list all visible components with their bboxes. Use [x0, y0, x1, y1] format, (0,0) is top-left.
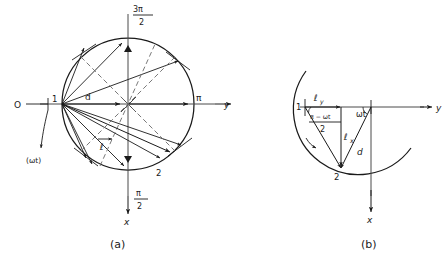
point-2-label-b: 2 — [334, 172, 339, 182]
point-2-label-a: 2 — [156, 168, 161, 178]
axis-x-label-b: x — [366, 215, 373, 225]
chord-a-3 — [62, 61, 178, 104]
tick-a-1 — [72, 44, 96, 60]
caption-a: (a) — [110, 238, 125, 251]
origin-label-a: O — [14, 100, 21, 110]
angle-top-denominator-a: 2 — [139, 18, 144, 27]
tick-a-2 — [166, 52, 190, 70]
rotation-label-a: (ωt) — [26, 156, 41, 165]
point-top-marker-a — [124, 45, 132, 52]
angle-half-denominator-b: 2 — [320, 125, 325, 134]
chord-a-5 — [62, 104, 124, 166]
angle-bottom-numerator-a: π — [136, 189, 141, 198]
angle-top-fraction-a: 3π 2 — [133, 5, 153, 27]
angle-half-fraction-b: π − ωt 2 — [309, 113, 341, 134]
component-ly-subscript-b: y — [319, 98, 324, 106]
circle-arc-b — [293, 71, 411, 175]
radius-d-label-b: d — [357, 147, 363, 157]
panel-a: O 1 (ωt) d ℓ 2 π y x 3π 2 π 2 (a) — [14, 5, 231, 251]
component-lx-glyph-b: ℓ — [343, 132, 348, 142]
chord-a-1 — [62, 43, 122, 104]
angle-bottom-fraction-a: π 2 — [134, 189, 148, 211]
caption-b: (b) — [361, 238, 377, 251]
angle-bottom-denominator-a: 2 — [137, 202, 142, 211]
angle-omega-label-b: ωt — [356, 110, 366, 119]
vector-ell-label-a: ℓ — [99, 142, 104, 152]
tick-a-4 — [74, 148, 98, 166]
component-ly-glyph-b: ℓ — [313, 93, 318, 103]
panel-b: 1 2 ℓ y ℓ x d ωt π − ωt 2 y x (b) — [293, 71, 442, 251]
point-2-marker-a — [124, 156, 132, 163]
rotation-arc-arrow-a — [41, 110, 48, 148]
axis-y-label-a: y — [223, 100, 230, 110]
component-ly-label-b: ℓ y — [313, 93, 324, 106]
diagram-canvas: O 1 (ωt) d ℓ 2 π y x 3π 2 π 2 (a) — [0, 0, 447, 261]
component-lx-label-b: ℓ x — [343, 132, 354, 144]
axis-y-label-b: y — [435, 103, 442, 113]
figure-root: O 1 (ωt) d ℓ 2 π y x 3π 2 π 2 (a) — [0, 0, 447, 261]
rotation-arc-arrow-b — [306, 138, 316, 148]
point-1-label-b: 1 — [296, 102, 301, 112]
angle-top-numerator-a: 3π — [133, 5, 143, 14]
component-lx-subscript-b: x — [349, 137, 354, 144]
radius-d-label-a: d — [85, 92, 91, 102]
chord-a-2 — [62, 48, 84, 104]
tick-a-3 — [168, 138, 192, 156]
vector-ell-arrow-a — [62, 104, 170, 152]
angle-half-numerator-b: π − ωt — [310, 113, 331, 120]
axis-x-label-a: x — [123, 217, 130, 227]
point-1-label-a: 1 — [52, 94, 57, 104]
angle-pi-label-a: π — [196, 93, 202, 103]
